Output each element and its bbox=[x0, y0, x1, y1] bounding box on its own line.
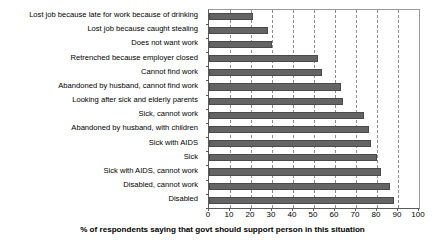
category-label: Cannot find work bbox=[141, 65, 198, 79]
bar-row bbox=[209, 137, 419, 151]
bar-row bbox=[209, 194, 419, 208]
category-label: Abandoned by husband, with children bbox=[71, 121, 198, 135]
bar-row bbox=[209, 109, 419, 123]
bar bbox=[209, 83, 341, 90]
bar-row bbox=[209, 52, 419, 66]
x-tick-label: 40 bbox=[288, 210, 297, 219]
bar-row bbox=[209, 66, 419, 80]
bar-row bbox=[209, 151, 419, 165]
bar-row bbox=[209, 80, 419, 94]
category-label: Sick with AIDS bbox=[149, 136, 198, 150]
x-tick-label: 50 bbox=[309, 210, 318, 219]
bar bbox=[209, 183, 390, 190]
bar bbox=[209, 140, 371, 147]
bar bbox=[209, 98, 343, 105]
bar-row bbox=[209, 165, 419, 179]
x-tick-label: 10 bbox=[225, 210, 234, 219]
bar bbox=[209, 126, 369, 133]
plot-area bbox=[208, 9, 420, 210]
x-tick-label: 100 bbox=[411, 210, 424, 219]
category-label: Looking after sick and elderly parents bbox=[72, 93, 198, 107]
bar-row bbox=[209, 10, 419, 24]
bar-row bbox=[209, 24, 419, 38]
category-label: Lost job because late for work because o… bbox=[29, 8, 198, 22]
category-label: Sick bbox=[184, 150, 198, 164]
category-label: Disabled, cannot work bbox=[123, 178, 198, 192]
x-axis-title: % of respondents saying that govt should… bbox=[0, 225, 445, 234]
x-tick-label: 60 bbox=[330, 210, 339, 219]
category-label: Retrenched because employer closed bbox=[71, 51, 198, 65]
bar bbox=[209, 27, 268, 34]
bar bbox=[209, 55, 318, 62]
x-tick-label: 20 bbox=[246, 210, 255, 219]
bar-row bbox=[209, 95, 419, 109]
x-tick-label: 80 bbox=[372, 210, 381, 219]
x-tick-label: 30 bbox=[267, 210, 276, 219]
x-tick-label: 90 bbox=[393, 210, 402, 219]
category-label: Abandoned by husband, cannot find work bbox=[58, 79, 198, 93]
bar bbox=[209, 69, 322, 76]
bar-row bbox=[209, 123, 419, 137]
category-label: Disabled bbox=[168, 192, 198, 206]
x-tick-label: 70 bbox=[351, 210, 360, 219]
bar bbox=[209, 41, 272, 48]
bar bbox=[209, 13, 253, 20]
category-label: Sick with AIDS, cannot work bbox=[103, 164, 198, 178]
bar-chart: Lost job because late for work because o… bbox=[0, 0, 445, 240]
category-label: Lost job because caught stealing bbox=[87, 22, 198, 36]
category-label: Sick, cannot work bbox=[138, 107, 198, 121]
bar-series bbox=[209, 10, 419, 209]
category-label: Does not want work bbox=[131, 36, 198, 50]
bar-row bbox=[209, 38, 419, 52]
category-axis-labels: Lost job because late for work because o… bbox=[0, 8, 203, 207]
bar-row bbox=[209, 180, 419, 194]
x-tick-label: 0 bbox=[206, 210, 210, 219]
bar bbox=[209, 168, 381, 175]
bar bbox=[209, 197, 394, 204]
bar bbox=[209, 112, 364, 119]
x-axis-tick-labels: 0102030405060708090100 bbox=[208, 210, 419, 222]
bar bbox=[209, 154, 377, 161]
